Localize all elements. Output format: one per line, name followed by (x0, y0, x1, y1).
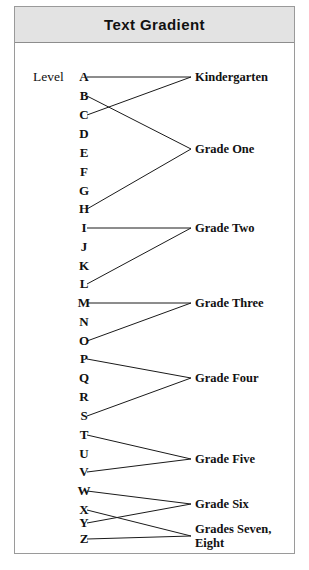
level-letter: Y (77, 515, 91, 531)
diagram-canvas: Level ABCDEFGHIJKLMNOPQRSTUVWXYZ Kinderg… (15, 43, 294, 553)
level-letter: U (77, 446, 91, 462)
level-letter: L (77, 276, 91, 292)
connector-line (87, 149, 191, 209)
level-letter: M (77, 295, 91, 311)
grade-label: Grade Four (195, 371, 259, 385)
level-letter: O (77, 333, 91, 349)
level-letter: H (77, 201, 91, 217)
grade-label: Grade Two (195, 221, 255, 235)
level-letter: Q (77, 370, 91, 386)
grade-label: Kindergarten (195, 70, 268, 84)
connector-line (87, 303, 191, 341)
level-letter: K (77, 258, 91, 274)
level-letter: N (77, 314, 91, 330)
connector-line (87, 536, 191, 539)
grade-label: Grade Six (195, 497, 249, 511)
grade-label: Grade Five (195, 452, 255, 466)
level-letter: T (77, 427, 91, 443)
level-axis-caption: Level (33, 69, 64, 85)
level-letter: J (77, 239, 91, 255)
grade-label: Grade Three (195, 296, 264, 310)
connector-line (87, 228, 191, 284)
connector-line (87, 491, 191, 504)
connector-line (87, 459, 191, 472)
level-letter: W (77, 483, 91, 499)
level-letter: C (77, 107, 91, 123)
connector-line (87, 435, 191, 459)
level-letter: P (77, 351, 91, 367)
connector-line (87, 378, 191, 416)
level-letter: D (77, 126, 91, 142)
figure-title-bar: Text Gradient (15, 7, 294, 43)
connector-line (87, 77, 191, 115)
level-letter: G (77, 183, 91, 199)
figure-panel: Text Gradient Level ABCDEFGHIJKLMNOPQRST… (14, 6, 295, 554)
page-title: Text Gradient (104, 16, 205, 33)
level-letter: E (77, 145, 91, 161)
grade-label: Grade One (195, 142, 254, 156)
level-letter: A (77, 69, 91, 85)
level-letter: B (77, 88, 91, 104)
level-letter: Z (77, 531, 91, 547)
level-letter: F (77, 164, 91, 180)
connector-line (87, 359, 191, 378)
grade-label: Grades Seven, Eight (195, 522, 271, 550)
level-letter: R (77, 389, 91, 405)
level-letter: I (77, 220, 91, 236)
connector-line (87, 96, 191, 149)
level-letter: V (77, 464, 91, 480)
level-letter: S (77, 408, 91, 424)
